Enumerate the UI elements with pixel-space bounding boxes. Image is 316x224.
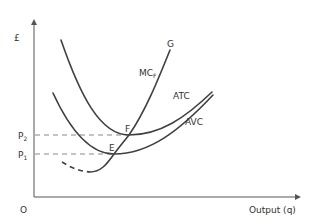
x-axis-label: Output (q) (249, 205, 296, 215)
point-f-label: F (125, 124, 130, 134)
p2-label: P2 (18, 131, 27, 142)
g-label: G (167, 39, 174, 49)
atc-label: ATC (173, 91, 190, 101)
p1-label: P1 (18, 150, 27, 161)
origin-label: O (20, 205, 27, 215)
mc-dashed-segment (62, 162, 90, 172)
y-axis-label: £ (14, 33, 20, 43)
cost-curves-diagram: £ O Output (q) P2 P1 MCF G ATC AVC F E (0, 0, 316, 224)
mc-label: MCF (139, 68, 157, 79)
point-e-label: E (109, 143, 115, 153)
avc-label: AVC (185, 117, 203, 127)
